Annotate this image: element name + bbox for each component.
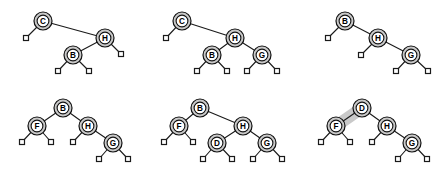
leaf-node-4 [97, 157, 102, 162]
tree-node-label-H: H [85, 122, 91, 131]
leaf-node-3 [71, 140, 76, 145]
tree-node-label-D: D [214, 139, 220, 148]
leaf-node-2 [195, 69, 200, 74]
leaf-node-1 [20, 140, 25, 145]
leaf-node-1 [24, 36, 29, 41]
tree-node-label-B: B [60, 104, 66, 113]
leaf-node-5 [425, 157, 430, 162]
leaf-node-2 [359, 53, 364, 58]
tree-node-label-G: G [409, 139, 415, 148]
tree-sequence-figure: CHBCHBGBHGBFHGBFHDGDFHG [0, 0, 447, 176]
leaf-node-5 [126, 157, 131, 162]
leaf-node-6 [280, 157, 285, 162]
tree-node-label-H: H [375, 34, 381, 43]
leaf-node-4 [230, 157, 235, 162]
leaf-node-2 [348, 140, 353, 145]
leaf-node-1 [319, 140, 324, 145]
leaf-node-5 [275, 69, 280, 74]
leaf-node-5 [251, 157, 256, 162]
leaf-node-3 [225, 69, 230, 74]
leaf-node-3 [394, 69, 399, 74]
leaf-node-2 [191, 140, 196, 145]
leaf-node-4 [396, 157, 401, 162]
tree-node-label-H: H [240, 122, 246, 131]
leaf-node-1 [162, 140, 167, 145]
tree-node-label-C: C [179, 17, 185, 26]
tree-panel-1: CHB [0, 0, 149, 88]
tree-panel-2: CHBG [149, 0, 298, 88]
tree-node-label-D: D [359, 104, 365, 113]
tree-node-label-H: H [384, 122, 390, 131]
tree-node-label-G: G [408, 51, 414, 60]
tree-node-label-F: F [176, 122, 181, 131]
leaf-node-3 [201, 157, 206, 162]
leaf-node-1 [164, 36, 169, 41]
tree-node-label-F: F [34, 122, 39, 131]
tree-panel-3: BHG [298, 0, 447, 88]
leaf-node-4 [426, 69, 431, 74]
leaf-node-4 [245, 69, 250, 74]
leaf-node-2 [49, 140, 54, 145]
tree-node-label-H: H [102, 34, 108, 43]
leaf-node-3 [56, 69, 61, 74]
tree-node-label-B: B [342, 17, 348, 26]
leaf-node-2 [119, 52, 124, 57]
tree-node-label-B: B [197, 104, 203, 113]
tree-panel-5: BFHDG [149, 88, 298, 176]
tree-edge-C-H [43, 21, 105, 38]
tree-node-label-B: B [209, 51, 215, 60]
leaf-node-3 [370, 140, 375, 145]
tree-node-label-G: G [110, 139, 116, 148]
tree-node-label-B: B [70, 51, 76, 60]
tree-node-label-C: C [40, 17, 46, 26]
tree-panel-6: DFHG [298, 88, 447, 176]
tree-node-label-H: H [232, 34, 238, 43]
tree-node-label-G: G [259, 51, 265, 60]
leaf-node-4 [87, 69, 92, 74]
leaf-node-1 [326, 36, 331, 41]
tree-panel-4: BFHG [0, 88, 149, 176]
tree-node-label-G: G [264, 139, 270, 148]
tree-node-label-F: F [333, 122, 338, 131]
